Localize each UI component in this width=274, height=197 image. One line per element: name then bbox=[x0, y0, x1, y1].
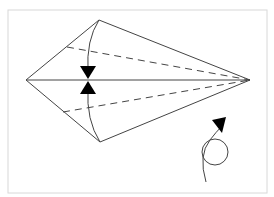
diagram-frame bbox=[8, 10, 267, 193]
origami-diagram bbox=[0, 0, 274, 197]
